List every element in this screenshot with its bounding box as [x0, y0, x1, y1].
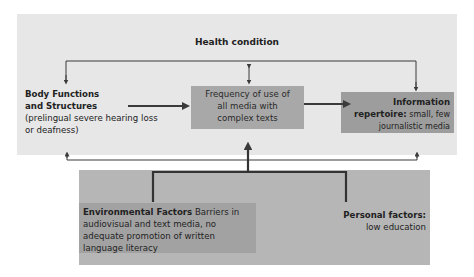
env-detail-inline: Barriers in	[192, 207, 239, 217]
health-condition-label: Health condition	[0, 37, 474, 47]
personal-title: Personal factors:	[300, 209, 426, 221]
info-detail-3: journalistic media	[341, 121, 450, 133]
body-functions-node: Body Functions and Structures (prelingua…	[25, 88, 185, 136]
frequency-line-3: complex texts	[191, 112, 304, 124]
frequency-line-1: Frequency of use of	[191, 88, 304, 100]
env-title: Environmental Factors	[83, 207, 192, 217]
body-functions-detail-1: (prelingual severe hearing loss	[25, 112, 185, 124]
personal-detail: low education	[300, 221, 426, 233]
info-title-2: repertoire:	[354, 109, 407, 119]
env-line-4: language literacy	[83, 242, 256, 254]
personal-factors-node: Personal factors: low education	[300, 209, 426, 233]
env-line-2: audiovisual and text media, no	[83, 218, 256, 230]
body-functions-title-1: Body Functions	[25, 88, 185, 100]
info-detail-inline: small, few	[407, 110, 450, 119]
frequency-of-use-node: Frequency of use of all media with compl…	[191, 86, 304, 129]
information-repertoire-node: Information repertoire: small, few journ…	[341, 92, 454, 133]
frequency-line-2: all media with	[191, 100, 304, 112]
body-functions-detail-2: or deafness)	[25, 124, 185, 136]
body-functions-title-2: and Structures	[25, 100, 185, 112]
environmental-factors-node: Environmental Factors Barriers in audiov…	[79, 203, 256, 253]
info-title-1: Information	[341, 96, 450, 108]
env-line-3: adequate promotion of written	[83, 230, 256, 242]
